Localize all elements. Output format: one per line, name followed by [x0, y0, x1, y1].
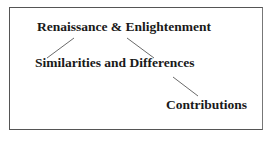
- edge-contributions: [173, 77, 198, 96]
- node-similarities-differences: Similarities and Differences: [35, 55, 194, 71]
- node-renaissance-enlightenment: Renaissance & Enlightenment: [37, 19, 211, 35]
- node-contributions: Contributions: [166, 97, 247, 113]
